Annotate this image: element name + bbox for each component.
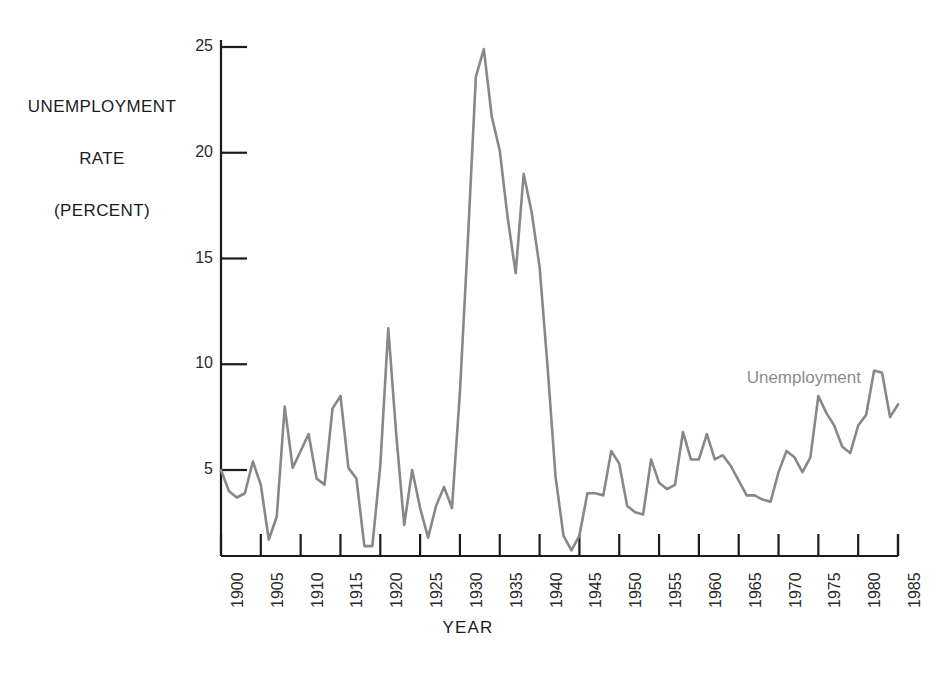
y-axis-title: UNEMPLOYMENT RATE (PERCENT) (12, 68, 192, 250)
y-axis-title-line-2: RATE (12, 146, 192, 172)
y-tick-marks (221, 47, 247, 470)
x-tick-label: 1900 (229, 572, 247, 608)
x-tick-label: 1980 (866, 572, 884, 608)
series-label-unemployment: Unemployment (747, 368, 861, 388)
x-tick-label: 1920 (388, 572, 406, 608)
x-tick-label: 1915 (348, 572, 366, 608)
x-tick-label: 1940 (548, 572, 566, 608)
y-axis-title-line-3: (PERCENT) (12, 198, 192, 224)
x-tick-label: 1950 (627, 572, 645, 608)
x-tick-label: 1930 (468, 572, 486, 608)
y-tick-label: 15 (179, 249, 213, 267)
x-tick-label: 1910 (309, 572, 327, 608)
x-tick-marks (221, 534, 898, 556)
x-tick-label: 1925 (428, 572, 446, 608)
axis-lines (221, 40, 898, 556)
chart-figure: UNEMPLOYMENT RATE (PERCENT) YEAR 5101520… (0, 0, 936, 675)
y-tick-label: 10 (179, 354, 213, 372)
x-tick-label: 1970 (787, 572, 805, 608)
x-tick-label: 1965 (747, 572, 765, 608)
y-tick-label: 20 (179, 143, 213, 161)
x-tick-label: 1945 (587, 572, 605, 608)
series-line-unemployment (221, 49, 898, 550)
x-axis-title: YEAR (0, 618, 936, 638)
y-axis-title-line-1: UNEMPLOYMENT (12, 94, 192, 120)
x-tick-label: 1905 (269, 572, 287, 608)
y-tick-label: 25 (179, 37, 213, 55)
y-tick-label: 5 (179, 460, 213, 478)
x-tick-label: 1985 (906, 572, 924, 608)
series-layer (221, 49, 898, 550)
x-tick-label: 1935 (508, 572, 526, 608)
x-tick-label: 1955 (667, 572, 685, 608)
x-tick-label: 1960 (707, 572, 725, 608)
x-tick-label: 1975 (826, 572, 844, 608)
